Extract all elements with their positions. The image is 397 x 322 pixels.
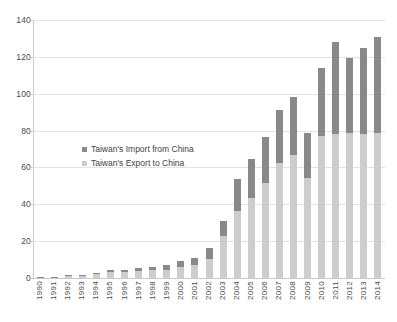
bar-segment-export xyxy=(121,272,128,278)
bar-segment-import xyxy=(290,97,297,155)
bar-segment-import xyxy=(262,137,269,183)
x-tick-label: 1999 xyxy=(163,281,171,300)
bar-segment-export xyxy=(360,134,367,278)
bar-segment-export xyxy=(107,272,114,278)
bar-group xyxy=(290,96,297,278)
bar-segment-export xyxy=(332,134,339,278)
bar-segment-import xyxy=(374,37,381,133)
bar-segment-import xyxy=(121,270,128,272)
bar-segment-export xyxy=(163,270,170,278)
bar-segment-export xyxy=(276,163,283,278)
bar-group xyxy=(346,58,353,278)
bar-group xyxy=(374,37,381,278)
bar-segment-export xyxy=(220,236,227,278)
bar-group xyxy=(149,267,156,278)
bar-segment-import xyxy=(163,265,170,270)
bar-segment-export xyxy=(374,133,381,278)
bar-segment-export xyxy=(93,274,100,278)
bar-group xyxy=(121,270,128,278)
bar-group xyxy=(276,110,283,278)
x-tick-label: 2001 xyxy=(191,281,199,300)
y-tick-label: 140 xyxy=(5,16,31,25)
bar-group xyxy=(93,273,100,278)
x-tick-label: 2012 xyxy=(346,281,354,300)
bar-group xyxy=(304,133,311,278)
bar-segment-import xyxy=(220,221,227,236)
bar-group xyxy=(360,48,367,278)
bar-group xyxy=(248,159,255,278)
bar-segment-import xyxy=(304,133,311,178)
bar-segment-export xyxy=(248,198,255,278)
legend-item-import: Taiwan's Import from China xyxy=(82,143,194,156)
bar-segment-import xyxy=(107,270,114,272)
bar-group xyxy=(262,137,269,278)
bar-group xyxy=(163,265,170,278)
bar-segment-import xyxy=(332,42,339,133)
bar-segment-import xyxy=(248,159,255,198)
y-tick-label: 40 xyxy=(5,200,31,209)
bar-group xyxy=(191,258,198,278)
y-tick-label: 20 xyxy=(5,237,31,246)
bar-segment-export xyxy=(51,277,58,278)
bar-segment-import xyxy=(346,58,353,134)
bar-segment-export xyxy=(262,183,269,278)
x-tick-label: 1992 xyxy=(64,281,72,300)
x-tick-label: 2005 xyxy=(247,281,255,300)
x-tick-label: 1995 xyxy=(106,281,114,300)
x-tick-label: 1997 xyxy=(135,281,143,300)
bar-group xyxy=(206,248,213,278)
bar-group xyxy=(332,42,339,278)
x-tick-label: 2008 xyxy=(289,281,297,300)
bar-segment-export xyxy=(177,267,184,278)
bar-segment-export xyxy=(37,277,44,278)
bar-segment-export xyxy=(135,271,142,278)
x-tick-label: 2009 xyxy=(304,281,312,300)
bar-segment-import xyxy=(234,179,241,212)
x-tick-label: 2003 xyxy=(219,281,227,300)
bar-segment-import xyxy=(206,248,213,259)
bar-group xyxy=(177,261,184,278)
bar-group xyxy=(234,179,241,279)
bar-group xyxy=(79,275,86,278)
bar-segment-import xyxy=(93,273,100,274)
bar-segment-export xyxy=(290,155,297,278)
x-tick-label: 1998 xyxy=(149,281,157,300)
bar-group xyxy=(135,268,142,278)
x-axis-labels: 1990199119921993199419951996199719981999… xyxy=(33,281,385,322)
bar-segment-import xyxy=(191,258,198,266)
bar-segment-export xyxy=(346,133,353,278)
bar-segment-export xyxy=(206,259,213,278)
chart-legend: Taiwan's Import from China Taiwan's Expo… xyxy=(82,143,194,171)
x-tick-label: 2006 xyxy=(261,281,269,300)
bar-segment-import xyxy=(318,68,325,136)
bar-group xyxy=(65,275,72,278)
bar-segment-export xyxy=(79,275,86,278)
x-tick-label: 2007 xyxy=(275,281,283,300)
x-tick-label: 1993 xyxy=(78,281,86,300)
legend-label-import: Taiwan's Import from China xyxy=(91,145,194,154)
bar-segment-import xyxy=(79,275,86,276)
y-tick-label: 80 xyxy=(5,127,31,136)
y-axis: 020406080100120140 xyxy=(0,0,31,322)
legend-swatch-import xyxy=(82,147,87,152)
x-tick-label: 1991 xyxy=(50,281,58,300)
x-tick-label: 1990 xyxy=(36,281,44,300)
bar-segment-export xyxy=(149,270,156,278)
gridline xyxy=(33,278,385,279)
x-tick-label: 2000 xyxy=(177,281,185,300)
x-tick-label: 1994 xyxy=(92,281,100,300)
y-tick-label: 100 xyxy=(5,90,31,99)
bar-group xyxy=(318,68,325,278)
legend-label-export: Taiwan's Export to China xyxy=(91,159,184,168)
x-tick-label: 2010 xyxy=(318,281,326,300)
bar-group xyxy=(37,277,44,278)
bar-segment-import xyxy=(65,275,72,276)
bar-segment-export xyxy=(191,265,198,278)
stacked-bar-chart: 020406080100120140 199019911992199319941… xyxy=(0,0,397,322)
y-tick-label: 120 xyxy=(5,53,31,62)
bar-group xyxy=(107,270,114,278)
x-tick-label: 2013 xyxy=(360,281,368,300)
x-tick-label: 2002 xyxy=(205,281,213,300)
bar-segment-export xyxy=(304,178,311,278)
bar-group xyxy=(51,277,58,278)
